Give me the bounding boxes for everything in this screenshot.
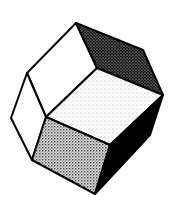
rhombic-dodecahedron-figure [0, 0, 182, 207]
